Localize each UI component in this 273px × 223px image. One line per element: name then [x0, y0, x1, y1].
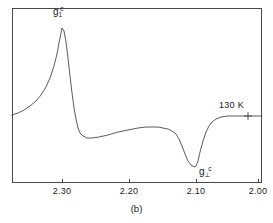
x-axis-tick-label: 2.20	[120, 186, 138, 196]
figure-caption: (b)	[0, 203, 273, 214]
x-axis-tick	[129, 179, 130, 183]
x-axis-tick	[62, 179, 63, 183]
x-axis-tick	[196, 179, 197, 183]
x-axis-tick-label: 2.00	[249, 186, 267, 196]
figure-panel-b: g1c g⊥c 130 K 2.302.202.102.00 (b)	[0, 0, 273, 223]
x-axis-tick-label: 2.10	[187, 186, 205, 196]
x-axis-tick	[258, 179, 259, 183]
x-axis-tick-label: 2.30	[53, 186, 71, 196]
x-axis: 2.302.202.102.00	[0, 0, 273, 223]
